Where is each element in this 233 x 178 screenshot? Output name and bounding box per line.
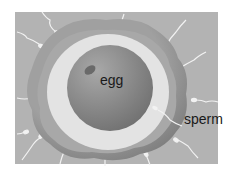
fertilization-diagram [0,0,233,178]
egg-label: egg [100,73,123,87]
sperm-label: sperm [184,112,223,126]
egg-cell [67,45,153,131]
